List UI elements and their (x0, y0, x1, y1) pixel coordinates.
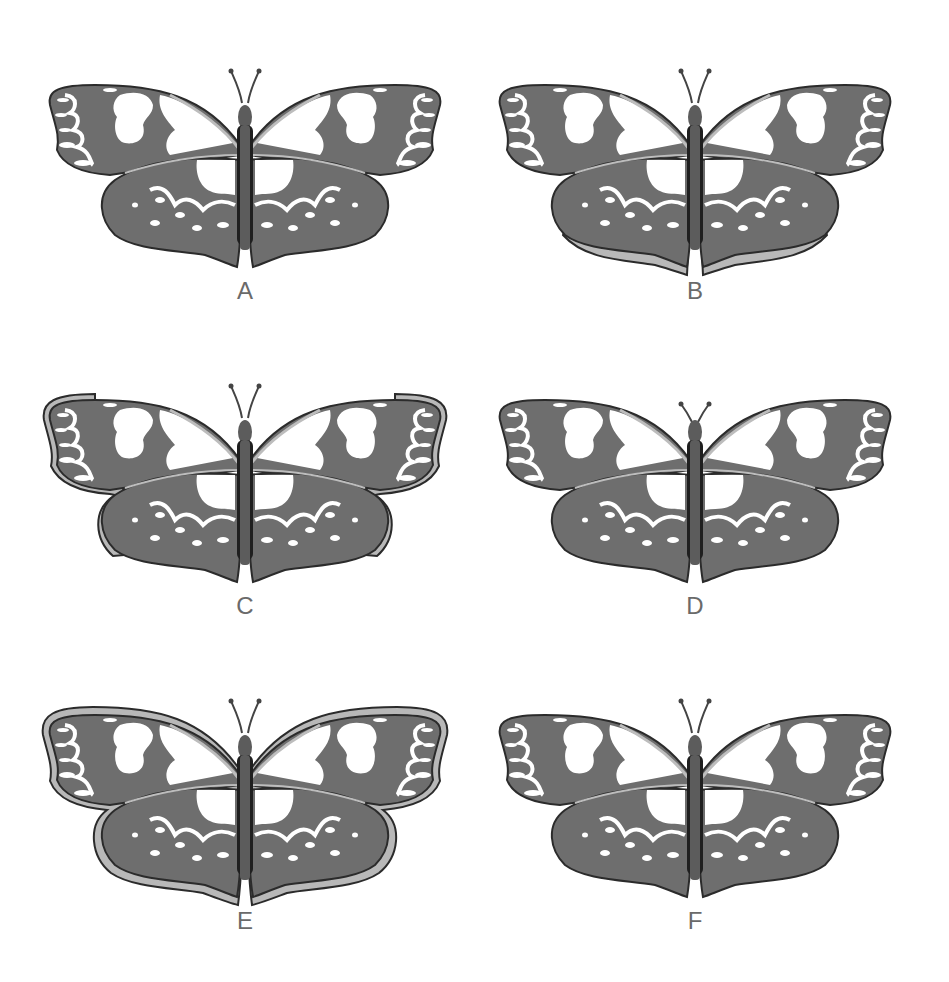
option-b[interactable]: B (485, 55, 905, 315)
option-d[interactable]: D (485, 370, 905, 630)
option-a[interactable]: A (35, 55, 455, 315)
option-c[interactable]: C (35, 370, 455, 630)
butterfly-icon (485, 55, 905, 285)
butterfly-icon (35, 55, 455, 285)
option-label: E (35, 907, 455, 935)
option-label: F (485, 907, 905, 935)
option-label: B (485, 277, 905, 305)
butterfly-icon (35, 685, 455, 915)
butterfly-icon (485, 685, 905, 915)
option-e[interactable]: E (35, 685, 455, 945)
option-label: A (35, 277, 455, 305)
option-label: D (485, 592, 905, 620)
option-label: C (35, 592, 455, 620)
butterfly-icon (485, 370, 905, 600)
butterfly-icon (35, 370, 455, 600)
option-f[interactable]: F (485, 685, 905, 945)
